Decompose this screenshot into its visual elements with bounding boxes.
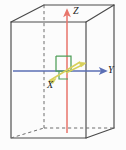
box-hidden-bottom-left-edge	[11, 128, 44, 138]
box-bottom-right-receding-edge	[86, 128, 114, 138]
box-top-right-receding-edge	[86, 5, 114, 22]
y-axis-label: Y	[108, 65, 114, 75]
z-axis-label: Z	[73, 6, 79, 16]
box-top-left-receding-edge	[11, 5, 44, 22]
figure-canvas: Z Y X	[0, 0, 126, 150]
x-axis-label: X	[47, 80, 53, 90]
diagram-svg	[0, 0, 126, 150]
